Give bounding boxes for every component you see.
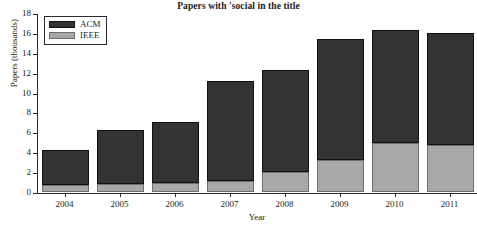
y-tick-label: 10 <box>9 88 31 98</box>
bar-group[interactable] <box>152 122 199 192</box>
legend-swatch-acm <box>49 21 75 28</box>
y-tick-mark <box>33 153 37 154</box>
bar-group[interactable] <box>42 150 89 192</box>
x-tick-label: 2006 <box>153 199 197 209</box>
x-tick-label: 2011 <box>428 199 472 209</box>
bar-group[interactable] <box>262 70 309 192</box>
bar-segment-ieee[interactable] <box>42 185 89 192</box>
x-tick-label: 2004 <box>43 199 87 209</box>
bar-group[interactable] <box>427 33 474 192</box>
bar-segment-ieee[interactable] <box>427 145 474 192</box>
bar-group[interactable] <box>372 30 419 192</box>
bar-segment-acm[interactable] <box>42 150 89 185</box>
bar-segment-acm[interactable] <box>152 122 199 183</box>
x-tick-mark <box>120 193 121 197</box>
x-tick-mark <box>285 193 286 197</box>
x-tick-label: 2008 <box>263 199 307 209</box>
bar-segment-ieee[interactable] <box>152 183 199 192</box>
y-tick-label: 6 <box>9 127 31 137</box>
y-tick-label: 14 <box>9 48 31 58</box>
bar-segment-acm[interactable] <box>262 70 309 172</box>
bar-segment-ieee[interactable] <box>97 184 144 192</box>
legend-item-acm: ACM <box>49 19 101 30</box>
bar-segment-acm[interactable] <box>372 30 419 143</box>
legend-swatch-ieee <box>49 32 75 39</box>
y-tick-mark <box>33 94 37 95</box>
x-tick-label: 2009 <box>318 199 362 209</box>
x-tick-mark <box>450 193 451 197</box>
x-tick-mark <box>230 193 231 197</box>
legend-label-acm: ACM <box>80 20 101 29</box>
y-tick-mark <box>33 14 37 15</box>
y-tick-mark <box>33 74 37 75</box>
bar-segment-ieee[interactable] <box>207 181 254 192</box>
y-tick-mark <box>33 54 37 55</box>
bar-segment-ieee[interactable] <box>372 143 419 192</box>
y-tick-label: 4 <box>9 147 31 157</box>
bar-segment-acm[interactable] <box>317 39 364 160</box>
y-tick-label: 8 <box>9 107 31 117</box>
bar-group[interactable] <box>317 39 364 192</box>
y-tick-label: 2 <box>9 167 31 177</box>
x-tick-mark <box>65 193 66 197</box>
x-tick-mark <box>395 193 396 197</box>
y-tick-mark <box>33 34 37 35</box>
chart-title: Papers with 'social in the title <box>0 1 477 11</box>
legend-item-ieee: IEEE <box>49 30 101 41</box>
x-tick-label: 2007 <box>208 199 252 209</box>
x-axis-label: Year <box>37 212 477 222</box>
y-tick-mark <box>33 193 37 194</box>
y-tick-label: 18 <box>9 8 31 18</box>
y-tick-mark <box>33 113 37 114</box>
y-tick-mark <box>33 173 37 174</box>
x-tick-label: 2005 <box>98 199 142 209</box>
chart-legend: ACM IEEE <box>44 16 107 45</box>
y-axis-line <box>37 14 38 194</box>
y-tick-label: 12 <box>9 68 31 78</box>
bar-segment-acm[interactable] <box>97 130 144 184</box>
bar-segment-ieee[interactable] <box>317 160 364 192</box>
bar-group[interactable] <box>97 130 144 192</box>
bar-segment-acm[interactable] <box>207 81 254 181</box>
legend-label-ieee: IEEE <box>80 31 100 40</box>
y-tick-label: 0 <box>9 187 31 197</box>
chart-container: Papers with 'social in the title Papers … <box>0 0 477 230</box>
y-tick-mark <box>33 133 37 134</box>
x-axis-line <box>37 193 477 194</box>
bar-segment-acm[interactable] <box>427 33 474 145</box>
x-tick-label: 2010 <box>373 199 417 209</box>
bar-group[interactable] <box>207 81 254 192</box>
x-tick-mark <box>340 193 341 197</box>
x-tick-mark <box>175 193 176 197</box>
bar-segment-ieee[interactable] <box>262 172 309 192</box>
y-tick-label: 16 <box>9 28 31 38</box>
